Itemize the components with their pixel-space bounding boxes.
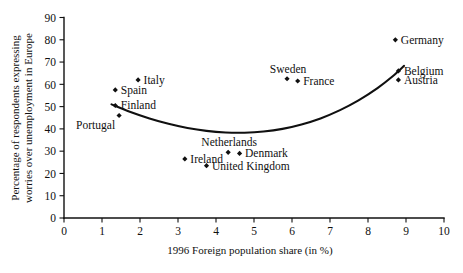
point-marker	[237, 151, 242, 156]
y-tick-label: 90	[45, 12, 57, 24]
y-tick-label: 10	[45, 190, 57, 202]
y-tick-label: 50	[45, 101, 57, 113]
data-point: Sweden	[270, 63, 307, 82]
axis-ticks	[60, 18, 445, 223]
point-label: Finland	[121, 99, 156, 111]
point-marker	[117, 113, 122, 118]
x-tick-label: 3	[175, 225, 181, 237]
x-tick-label: 0	[61, 225, 67, 237]
y-tick-label: 60	[45, 79, 57, 91]
y-tick-label: 0	[50, 212, 56, 224]
data-point: Finland	[113, 99, 156, 111]
point-label: Portugal	[76, 119, 115, 132]
data-points: ItalySpainFinlandPortugalIrelandUnited K…	[76, 34, 444, 173]
x-tick-label: 6	[289, 225, 295, 237]
point-label: United Kingdom	[212, 160, 290, 173]
x-tick-labels: 012345678910	[61, 225, 450, 237]
point-marker	[284, 76, 289, 81]
x-tick-label: 5	[251, 225, 257, 237]
point-marker	[136, 77, 141, 82]
x-tick-label: 4	[213, 225, 219, 237]
point-marker	[396, 77, 401, 82]
point-marker	[295, 78, 300, 83]
data-point: Austria	[396, 74, 438, 86]
point-marker	[113, 87, 118, 92]
x-tick-label: 8	[365, 225, 371, 237]
data-point: United Kingdom	[204, 160, 290, 173]
point-label: Sweden	[270, 63, 307, 75]
axes	[64, 18, 444, 219]
plot-area: 012345678910 0102030405060708090 ItalySp…	[0, 0, 463, 273]
data-point: France	[295, 75, 334, 87]
point-label: Germany	[401, 34, 444, 47]
y-tick-label: 20	[45, 168, 57, 180]
y-tick-label: 30	[45, 145, 57, 157]
x-tick-label: 10	[438, 225, 450, 237]
data-point: Germany	[393, 34, 444, 47]
y-tick-label: 80	[45, 34, 57, 46]
point-marker	[226, 150, 231, 155]
data-point: Spain	[113, 84, 148, 97]
point-label: Spain	[121, 84, 147, 97]
point-label: France	[303, 75, 334, 87]
y-axis-title-line2: worries over unemployment in Europe	[22, 33, 34, 203]
point-label: Austria	[404, 74, 438, 86]
x-axis-title: 1996 Foreign population share (in %)	[167, 244, 333, 257]
y-tick-label: 40	[45, 123, 57, 135]
x-tick-label: 2	[137, 225, 143, 237]
y-tick-labels: 0102030405060708090	[45, 12, 57, 225]
x-tick-label: 1	[99, 225, 105, 237]
point-marker	[182, 156, 187, 161]
point-marker	[393, 37, 398, 42]
x-tick-label: 9	[403, 225, 409, 237]
y-tick-label: 70	[45, 56, 57, 68]
scatter-chart: 012345678910 0102030405060708090 ItalySp…	[0, 0, 463, 273]
data-point: Denmark	[237, 147, 288, 159]
data-point: Portugal	[76, 113, 122, 132]
y-axis-title-line1: Percentage of respondents expressing	[9, 35, 21, 201]
point-label: Denmark	[245, 147, 288, 159]
x-tick-label: 7	[327, 225, 333, 237]
